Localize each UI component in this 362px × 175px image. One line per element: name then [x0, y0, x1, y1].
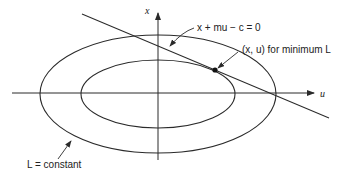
contour-label: L = constant: [27, 159, 82, 170]
u-axis-label: u: [320, 88, 325, 99]
contour-label-arrow: [58, 141, 71, 159]
diagram-canvas: x u x + mu − c = 0 (x, u) for minimum L …: [0, 0, 362, 175]
minimum-point-label: (x, u) for minimum L: [242, 44, 331, 55]
constraint-line-label: x + mu − c = 0: [197, 22, 261, 33]
minimum-label-arrow: [218, 52, 238, 68]
x-axis-label: x: [144, 5, 150, 16]
minimum-point-dot: [212, 67, 217, 72]
